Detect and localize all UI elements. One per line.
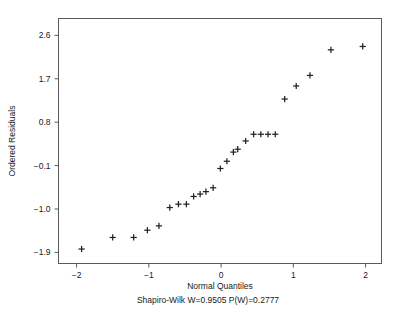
data-point [360, 43, 366, 49]
data-point [272, 131, 278, 137]
data-point [156, 223, 162, 229]
y-tick-label: 2.6 [39, 30, 51, 40]
data-point [328, 47, 334, 53]
y-tick-label: 1.7 [39, 74, 51, 84]
x-tick-label: 2 [363, 270, 368, 280]
x-tick-label: −2 [72, 270, 82, 280]
data-point [243, 138, 249, 144]
data-point [110, 234, 116, 240]
data-point [282, 96, 288, 102]
data-point [210, 185, 216, 191]
data-point [230, 149, 236, 155]
y-axis-tick-labels: 2.61.70.8−0.1−1.0−1.9 [34, 30, 51, 257]
data-point [224, 158, 230, 164]
x-tick-label: 1 [291, 270, 296, 280]
y-axis-ticks [55, 35, 59, 252]
x-tick-label: −1 [144, 270, 154, 280]
y-axis-title: Ordered Residuals [7, 106, 17, 177]
plot-frame [59, 19, 382, 264]
data-point [251, 131, 257, 137]
data-point [307, 72, 313, 78]
data-point [175, 201, 181, 207]
data-point [258, 131, 264, 137]
x-axis-title: Normal Quantiles [187, 281, 253, 291]
y-tick-label: 0.8 [39, 117, 51, 127]
data-point [203, 189, 209, 195]
data-point [217, 165, 223, 171]
data-point [79, 246, 85, 252]
scatter-series [79, 43, 366, 252]
data-point [235, 146, 241, 152]
data-point [265, 131, 271, 137]
y-tick-label: −1.9 [34, 247, 51, 257]
x-axis-ticks [77, 264, 366, 268]
data-point [197, 191, 203, 197]
y-tick-label: −0.1 [34, 161, 51, 171]
qq-plot-figure: 2.61.70.8−0.1−1.0−1.9 −2−1012 Normal Qua… [0, 0, 402, 320]
y-tick-label: −1.0 [34, 204, 51, 214]
plot-canvas: 2.61.70.8−0.1−1.0−1.9 −2−1012 Normal Qua… [0, 0, 402, 320]
x-axis-tick-labels: −2−1012 [72, 270, 369, 280]
data-point [183, 201, 189, 207]
data-point [293, 83, 299, 89]
x-tick-label: 0 [219, 270, 224, 280]
shapiro-wilk-annotation: Shapiro-Wilk W=0.9505 P(W)=0.2777 [137, 295, 279, 305]
data-point [131, 234, 137, 240]
data-point [144, 227, 150, 233]
data-point [167, 204, 173, 210]
data-point [191, 193, 197, 199]
